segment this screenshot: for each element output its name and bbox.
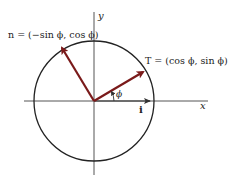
- angle-arc: [112, 92, 115, 102]
- angle-label: ϕ: [116, 89, 122, 99]
- x-axis-label: x: [200, 100, 206, 111]
- t-vector-label: T = (cos ϕ, sin ϕ): [145, 55, 228, 66]
- n-vector-label: n = (−sin ϕ, cos ϕ): [8, 29, 98, 40]
- unit-circle-diagram: y x n = (−sin ϕ, cos ϕ) T = (cos ϕ, sin …: [0, 0, 230, 183]
- i-vector-label: i: [139, 104, 143, 115]
- n-vector: [62, 48, 94, 101]
- y-axis-label: y: [97, 10, 104, 21]
